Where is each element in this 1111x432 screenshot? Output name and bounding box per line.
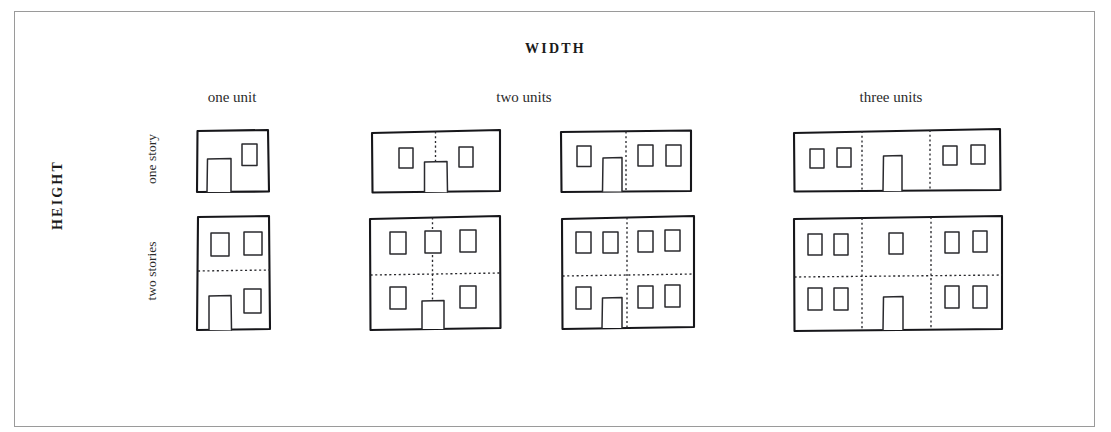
window — [425, 231, 441, 253]
window — [808, 234, 822, 255]
window — [834, 234, 848, 255]
window — [834, 288, 848, 310]
door — [425, 162, 448, 193]
window — [973, 231, 987, 252]
window — [943, 146, 957, 165]
window — [576, 287, 591, 309]
window — [244, 232, 262, 255]
window — [810, 149, 824, 168]
building-three-units-two-stories — [790, 213, 1006, 335]
door — [603, 158, 623, 192]
window — [638, 231, 653, 252]
window — [390, 287, 406, 309]
window — [665, 285, 680, 307]
window — [576, 232, 591, 253]
width-axis-title: WIDTH — [0, 41, 1111, 57]
building-one-unit-one-story — [194, 127, 272, 195]
window — [808, 288, 822, 310]
window — [603, 232, 618, 253]
window — [666, 145, 681, 166]
window — [242, 144, 257, 166]
door — [209, 296, 232, 331]
building-two-units-one-story-variant-a — [369, 127, 503, 195]
window — [460, 230, 476, 252]
window — [973, 286, 987, 308]
window — [638, 286, 653, 308]
column-header-three-units: three units — [791, 89, 991, 106]
window — [665, 230, 680, 251]
window — [244, 289, 261, 313]
building-two-units-two-stories-variant-a — [366, 213, 504, 333]
window — [945, 232, 959, 253]
window — [459, 147, 473, 167]
column-header-two-units: two units — [424, 89, 624, 106]
door — [602, 298, 622, 329]
window — [638, 145, 653, 166]
window — [945, 286, 959, 308]
door — [883, 156, 902, 192]
window — [577, 146, 591, 167]
figure-page: WIDTH HEIGHT one unit two units three un… — [0, 0, 1111, 432]
building-two-units-one-story-variant-b — [558, 127, 694, 195]
window — [390, 232, 406, 254]
window — [211, 233, 229, 256]
door — [883, 297, 903, 331]
door — [207, 159, 231, 193]
window — [971, 145, 985, 164]
window — [889, 233, 903, 254]
building-two-units-two-stories-variant-b — [558, 213, 698, 333]
window — [399, 148, 413, 168]
building-one-unit-two-stories — [194, 213, 274, 333]
window — [460, 286, 476, 308]
column-header-one-unit: one unit — [132, 89, 332, 106]
row-label-one-story: one story — [144, 114, 160, 204]
window — [837, 148, 851, 167]
door — [422, 301, 444, 330]
row-label-two-stories: two stories — [144, 226, 160, 316]
building-three-units-one-story — [791, 125, 1003, 195]
height-axis-title: HEIGHT — [50, 135, 66, 255]
